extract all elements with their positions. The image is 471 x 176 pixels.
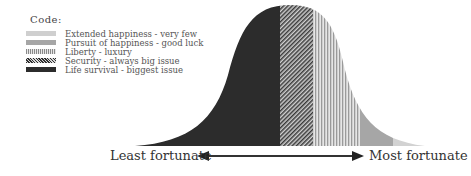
double-headed-arrow-icon — [197, 151, 364, 161]
segment-pursuit — [360, 0, 393, 150]
segment-survival — [130, 0, 280, 150]
segment-liberty — [313, 0, 360, 150]
most-fortunate-label: Most fortunate — [369, 148, 468, 163]
segment-extended — [393, 0, 433, 150]
least-fortunate-label: Least fortunate — [110, 148, 212, 163]
segment-security — [280, 0, 313, 150]
